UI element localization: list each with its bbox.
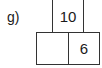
bottom-right-value: 6 bbox=[80, 41, 88, 56]
top-total-box: 10 bbox=[52, 0, 84, 33]
top-total-value: 10 bbox=[60, 9, 77, 24]
problem-label: g) bbox=[7, 9, 19, 25]
bottom-right-box: 6 bbox=[68, 32, 100, 65]
bottom-left-box[interactable] bbox=[36, 32, 69, 65]
